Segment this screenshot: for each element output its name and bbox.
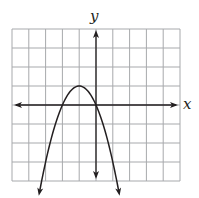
x-axis-label: x (183, 95, 192, 113)
parabola-graph: x y (0, 0, 199, 198)
y-axis-label: y (89, 7, 99, 25)
